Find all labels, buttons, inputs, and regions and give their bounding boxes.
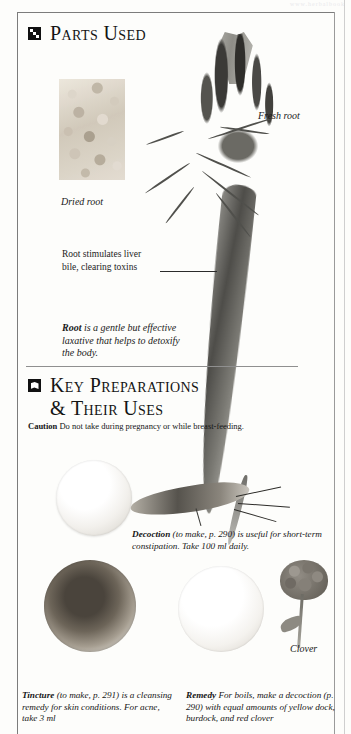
tincture-lead: Tincture [22,690,54,700]
clover-flower-head [280,560,328,600]
root-fiber [238,503,290,508]
remedy-caption: Remedy For boils, make a decoction (p. 2… [186,690,336,725]
section-title-line1: Key Preparations [50,374,199,396]
rootlet [220,126,270,135]
plate-left-rule [17,12,18,734]
tincture-bowl-photo [44,560,136,652]
root-description-lead: Root [62,322,81,333]
decoction-leader-line [196,508,202,526]
section-divider-rule [26,366,298,367]
fresh-root-photo [150,34,340,514]
clover-photo [272,560,334,650]
section-title-parts-used: Parts Used [50,22,146,44]
caution-text: Do not take during pregnancy or while br… [59,421,244,431]
rootlet [146,130,184,146]
root-description: Root is a gentle but effective laxative … [62,322,186,360]
leaf-block-icon [28,379,41,392]
decoction-root-piece [129,477,252,521]
rootlet [215,192,251,237]
section-title-line2: & Their Uses [50,397,163,419]
remedy-lead: Remedy [186,690,216,700]
taproot [189,183,257,515]
page-edge-rule [344,0,345,734]
root-callout-line1: Root stimulates liver [62,249,141,259]
decoction-bowl-photo [56,460,132,536]
rootlet [196,152,252,178]
rootlet [201,170,259,216]
caution-note: Caution Do not take during pregnancy or … [28,421,298,432]
root-fiber [234,509,277,522]
clover-label: Clover [290,643,317,656]
root-stalks [208,32,264,84]
section-title-key-preparations: Key Preparations & Their Uses [50,374,199,420]
decoction-lead: Decoction [132,529,170,539]
decoction-caption: Decoction (to make, p. 290) is useful fo… [132,529,332,552]
tincture-caption: Tincture (to make, p. 291) is a cleansin… [22,690,174,725]
dried-root-photo [59,79,125,180]
remedy-bowl-photo [178,566,264,652]
herbal-reference-page: www.herbalbook Parts Used Dried root Fre… [0,0,351,734]
rootlet [145,162,191,194]
fresh-root-label: Fresh root [258,110,300,123]
dried-root-label: Dried root [61,196,103,209]
section-header-parts-used: Parts Used [28,22,146,44]
rootlet [165,186,195,223]
page-watermark: www.herbalbook [290,1,345,7]
plate-right-rule [334,12,335,734]
caution-label: Caution [28,421,57,431]
plate-top-rule [17,12,335,13]
callout-leader-line [160,271,217,272]
root-callout-line2: bile, clearing toxins [62,262,137,272]
parts-grid-icon [28,27,41,40]
section-header-key-preparations: Key Preparations & Their Uses [28,374,199,420]
